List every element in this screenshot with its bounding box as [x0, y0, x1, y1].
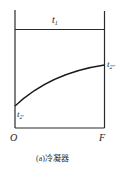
- area-end-label: F: [99, 133, 105, 143]
- t2-inlet-label: t2': [17, 110, 24, 120]
- t2-outlet-label: t2'': [107, 60, 115, 70]
- caption-prefix: (a): [36, 154, 45, 163]
- t2-temperature-curve: [15, 65, 105, 106]
- condenser-temperature-diagram: [0, 0, 126, 173]
- caption-text: 冷凝器: [45, 154, 69, 163]
- figure-caption: (a)冷凝器: [0, 152, 105, 163]
- origin-label: O: [10, 133, 17, 143]
- t1-label: t1: [52, 15, 58, 26]
